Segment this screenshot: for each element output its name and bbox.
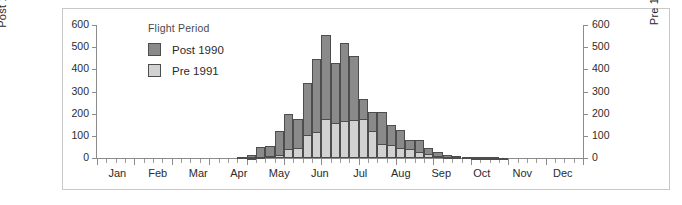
x-axis-label-mar: Mar: [176, 167, 220, 179]
x-tick-16: [247, 159, 248, 165]
y-tick-label-right-200: 200: [592, 107, 610, 119]
y-tick-right-100: [584, 136, 588, 137]
x-tick-11: [200, 159, 201, 163]
x-axis-label-jun: Jun: [298, 167, 342, 179]
bar-pre-1991-week-17: [247, 158, 256, 160]
x-axis-label-sep: Sep: [419, 167, 463, 179]
y-tick-label-right-500: 500: [592, 40, 610, 52]
bar-pre-1991-week-38: [443, 157, 452, 159]
x-axis-label-jan: Jan: [95, 167, 139, 179]
x-tick-37: [443, 159, 444, 163]
y-axis-left-line: [96, 25, 97, 159]
y-tick-right-0: [584, 158, 588, 159]
x-tick-35: [424, 159, 425, 163]
x-tick-26: [340, 159, 341, 163]
y-tick-left-300: [92, 92, 96, 93]
y-tick-label-right-300: 300: [592, 85, 610, 97]
bar-post-1990-week-44: [499, 158, 508, 160]
bar-pre-1991-week-26: [331, 123, 340, 158]
x-tick-15: [237, 159, 238, 163]
legend-item-pre-1991[interactable]: Pre 1991: [148, 64, 224, 77]
bar-pre-1991-week-40: [462, 157, 471, 159]
x-tick-10: [190, 159, 191, 163]
bar-post-1990-week-20: [275, 131, 284, 158]
bar-pre-1991-week-18: [256, 157, 265, 159]
x-tick-13: [219, 159, 220, 163]
bar-pre-1991-week-43: [490, 158, 499, 160]
x-tick-4: [134, 159, 135, 165]
bar-pre-1991-week-41: [471, 158, 480, 160]
y-tick-label-left-200: 200: [71, 107, 89, 119]
y-tick-right-500: [584, 47, 588, 48]
legend-title: Flight Period: [148, 22, 224, 34]
x-tick-17: [256, 159, 257, 163]
bar-pre-1991-week-33: [396, 148, 405, 158]
x-tick-30: [377, 159, 378, 163]
x-tick-38: [452, 159, 453, 163]
x-axis-label-may: May: [257, 167, 301, 179]
bar-pre-1991-week-31: [377, 144, 386, 158]
x-tick-3: [125, 159, 126, 163]
bar-post-1990-week-16: [237, 157, 246, 159]
x-tick-51: [574, 159, 575, 163]
legend-swatch-pre-1991-icon: [148, 64, 161, 77]
x-tick-9: [181, 159, 182, 163]
y-tick-label-left-600: 600: [71, 18, 89, 30]
x-tick-20: [284, 159, 285, 165]
y-tick-label-right-0: 0: [592, 151, 598, 163]
legend-label-post-1990: Post 1990: [172, 44, 224, 56]
x-tick-50: [564, 159, 565, 163]
x-axis-label-feb: Feb: [136, 167, 180, 179]
x-tick-18: [265, 159, 266, 163]
x-axis-label-oct: Oct: [460, 167, 504, 179]
x-tick-5: [144, 159, 145, 163]
y-tick-label-left-500: 500: [71, 40, 89, 52]
chart-figure: Post 1990 Pre 1991 6005004003002001000 6…: [0, 0, 682, 205]
x-axis-label-dec: Dec: [541, 167, 585, 179]
x-tick-2: [116, 159, 117, 163]
legend-label-pre-1991: Pre 1991: [172, 65, 219, 77]
x-tick-12: [209, 159, 210, 165]
bar-pre-1991-week-42: [480, 158, 489, 160]
x-tick-23: [312, 159, 313, 163]
x-tick-45: [518, 159, 519, 163]
x-tick-6: [153, 159, 154, 163]
x-tick-0: [97, 159, 98, 165]
x-tick-46: [527, 159, 528, 163]
bar-pre-1991-week-23: [303, 135, 312, 158]
x-tick-21: [293, 159, 294, 163]
bar-pre-1991-week-21: [284, 149, 293, 158]
x-tick-48: [546, 159, 547, 165]
x-tick-22: [303, 159, 304, 163]
bar-pre-1991-week-19: [265, 156, 274, 158]
x-tick-27: [349, 159, 350, 163]
bar-pre-1991-week-34: [405, 149, 414, 158]
legend-swatch-post-1990-icon: [148, 43, 161, 56]
y-axis-title-right: Pre 1991: [648, 0, 660, 52]
x-axis-label-nov: Nov: [500, 167, 544, 179]
bar-pre-1991-week-29: [359, 119, 368, 158]
x-axis-label-aug: Aug: [379, 167, 423, 179]
x-tick-25: [331, 159, 332, 163]
x-tick-29: [368, 159, 369, 163]
x-axis-label-jul: Jul: [338, 167, 382, 179]
y-tick-left-400: [92, 69, 96, 70]
legend-item-post-1990[interactable]: Post 1990: [148, 43, 224, 56]
bar-pre-1991-week-37: [433, 156, 442, 158]
y-tick-left-100: [92, 136, 96, 137]
bar-pre-1991-week-35: [415, 152, 424, 158]
x-tick-52: [583, 159, 584, 165]
x-tick-39: [462, 159, 463, 163]
x-tick-8: [172, 159, 173, 165]
x-tick-34: [415, 159, 416, 163]
x-tick-40: [471, 159, 472, 165]
y-tick-label-left-400: 400: [71, 62, 89, 74]
bar-pre-1991-week-32: [387, 145, 396, 158]
x-tick-49: [555, 159, 556, 163]
bar-pre-1991-week-27: [340, 121, 349, 158]
y-tick-right-300: [584, 92, 588, 93]
x-tick-14: [228, 159, 229, 163]
bar-pre-1991-week-24: [312, 132, 321, 158]
x-axis-label-apr: Apr: [217, 167, 261, 179]
x-tick-24: [321, 159, 322, 165]
